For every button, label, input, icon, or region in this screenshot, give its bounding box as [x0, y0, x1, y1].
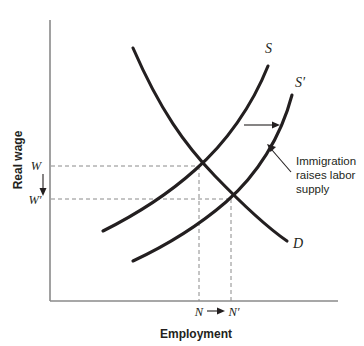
x-tick-label-n: N: [194, 305, 204, 319]
supply-demand-figure: S S′ D W W′ N N′ Real wage Employment Im…: [0, 0, 364, 346]
annotation-line-3: supply: [296, 183, 329, 195]
employment-increase-arrow-icon: [207, 308, 225, 315]
chart-canvas: S S′ D W W′ N N′ Real wage Employment Im…: [0, 0, 364, 346]
y-axis-title: Real wage: [11, 130, 25, 189]
annotation-line-1: Immigration: [296, 155, 356, 167]
supply-shifted-curve-label: S′: [295, 75, 306, 90]
demand-curve-label: D: [292, 236, 303, 251]
y-tick-label-w-prime: W′: [28, 193, 41, 207]
shift-arrow-icon: [244, 122, 280, 129]
x-axis-title: Employment: [160, 327, 232, 341]
y-tick-label-w: W: [31, 159, 43, 173]
callout-arrow-icon: [267, 144, 291, 172]
supply-curve-shifted: [133, 95, 292, 261]
annotation-line-2: raises labor: [296, 169, 356, 181]
supply-curve-label: S: [265, 41, 272, 56]
x-tick-label-n-prime: N′: [227, 305, 239, 319]
